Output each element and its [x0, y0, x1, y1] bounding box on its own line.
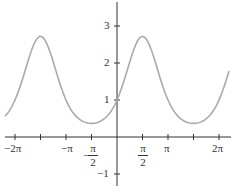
x-label-neg-pi: −π — [61, 143, 73, 154]
x-label-2pi: 2π — [212, 143, 223, 154]
x-label-neg-half-pi: π 2 — [88, 143, 98, 168]
y-label-neg-1: −1 — [97, 168, 109, 179]
y-label-3: 3 — [104, 20, 110, 31]
x-label-neg-2pi: −2π — [4, 143, 21, 154]
fraction-denominator: 2 — [140, 156, 146, 168]
chart-plot — [0, 0, 233, 191]
x-label-pi: π — [164, 143, 170, 154]
fraction-numerator: π — [140, 142, 146, 154]
fraction-denominator: 2 — [90, 156, 96, 168]
y-label-1: 1 — [104, 94, 110, 105]
y-label-2: 2 — [104, 57, 110, 68]
fraction-numerator: π — [90, 142, 96, 154]
x-label-half-pi: π 2 — [138, 143, 148, 168]
